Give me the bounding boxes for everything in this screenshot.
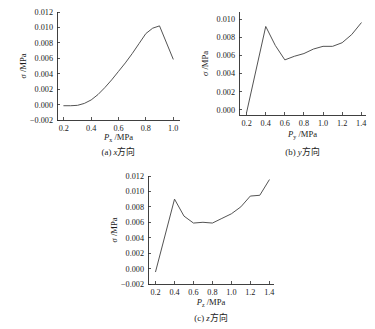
y-tick-label-a-5: 0.008 [35, 39, 53, 48]
plot-c: −0.0020.0000.0020.0040.0060.0080.0100.01… [96, 162, 286, 327]
y-axis-title-b: σ /MPa [200, 51, 210, 76]
data-curve-a [64, 26, 173, 106]
x-tick-label-c-1: 0.4 [169, 288, 179, 297]
y-tick-label-b-1: 0.002 [217, 88, 235, 97]
y-tick-label-a-6: 0.010 [35, 23, 53, 32]
y-tick-label-c-2: 0.002 [126, 249, 144, 258]
chart-caption-b: (b) y方向 [285, 146, 319, 157]
y-tick-label-c-6: 0.010 [126, 187, 144, 196]
axis-spines [57, 12, 180, 120]
x-tick-label-b-6: 1.4 [356, 119, 366, 128]
data-curve-c [156, 180, 270, 272]
x-axis-title-b: Py /MPa [287, 129, 317, 140]
x-tick-label-c-5: 1.2 [245, 288, 255, 297]
chart-caption-a: (a) x方向 [102, 146, 136, 157]
x-tick-label-b-5: 1.2 [337, 119, 347, 128]
y-tick-label-c-0: −0.002 [121, 280, 144, 289]
x-tick-label-c-6: 1.4 [264, 288, 274, 297]
x-tick-label-c-3: 0.8 [207, 288, 217, 297]
x-tick-label-b-0: 0.2 [242, 119, 252, 128]
data-curve-b [247, 23, 362, 112]
y-tick-label-c-5: 0.008 [126, 203, 144, 212]
chart-panel-a: −0.0020.0000.0020.0040.0060.0080.0100.01… [8, 2, 188, 160]
plot-a: −0.0020.0000.0020.0040.0060.0080.0100.01… [8, 2, 188, 160]
x-tick-label-a-1: 0.4 [86, 124, 96, 133]
axis-spines [239, 12, 366, 115]
y-tick-label-b-2: 0.004 [217, 69, 235, 78]
x-axis-title-a: Px /MPa [103, 132, 133, 143]
y-axis-title-c: σ /MPa [109, 217, 119, 242]
y-tick-label-b-3: 0.006 [217, 51, 235, 60]
y-tick-label-c-1: 0.000 [126, 265, 144, 274]
chart-caption-c: (c) z方向 [194, 312, 227, 323]
plot-b: 0.0000.0020.0040.0060.0080.0100.20.40.60… [190, 2, 372, 160]
y-tick-label-b-5: 0.010 [217, 15, 235, 24]
figure-container: −0.0020.0000.0020.0040.0060.0080.0100.01… [0, 0, 375, 329]
y-tick-label-c-3: 0.004 [126, 234, 144, 243]
y-tick-label-a-2: 0.002 [35, 85, 53, 94]
y-tick-label-a-4: 0.006 [35, 54, 53, 63]
y-axis-title-a: σ /MPa [18, 53, 28, 78]
y-tick-label-a-3: 0.004 [35, 70, 53, 79]
x-tick-label-b-3: 0.8 [299, 119, 309, 128]
x-tick-label-a-3: 0.8 [141, 124, 151, 133]
y-tick-label-a-7: 0.012 [35, 8, 53, 17]
y-tick-label-c-4: 0.006 [126, 218, 144, 227]
x-tick-label-c-0: 0.2 [150, 288, 160, 297]
y-tick-label-b-0: 0.000 [217, 106, 235, 115]
x-tick-label-b-1: 0.4 [261, 119, 271, 128]
x-tick-label-a-4: 1.0 [168, 124, 178, 133]
y-tick-label-c-7: 0.012 [126, 172, 144, 181]
y-tick-label-a-1: 0.000 [35, 101, 53, 110]
x-tick-label-c-2: 0.6 [188, 288, 198, 297]
y-tick-label-b-4: 0.008 [217, 33, 235, 42]
y-tick-label-a-0: −0.002 [30, 116, 53, 125]
x-tick-label-b-4: 1.0 [318, 119, 328, 128]
x-tick-label-c-4: 1.0 [226, 288, 236, 297]
chart-panel-b: 0.0000.0020.0040.0060.0080.0100.20.40.60… [190, 2, 372, 160]
chart-panel-c: −0.0020.0000.0020.0040.0060.0080.0100.01… [96, 162, 286, 327]
x-tick-label-b-2: 0.6 [280, 119, 290, 128]
x-tick-label-a-0: 0.2 [59, 124, 69, 133]
x-axis-title-c: Pz /MPa [196, 297, 226, 308]
